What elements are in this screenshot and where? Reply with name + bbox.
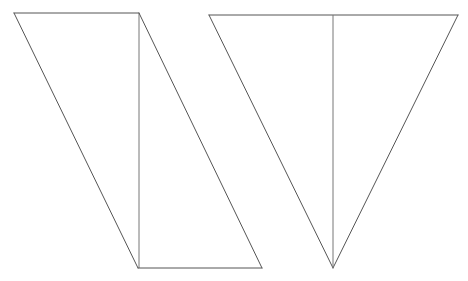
right-figure-left-side [209, 15, 333, 268]
diagram-canvas [0, 0, 468, 281]
left-figure-left-diagonal [14, 13, 138, 268]
left-figure-right-diagonal [139, 13, 262, 268]
left-figure [14, 13, 262, 268]
right-figure [209, 15, 458, 268]
right-figure-right-side [333, 15, 458, 268]
